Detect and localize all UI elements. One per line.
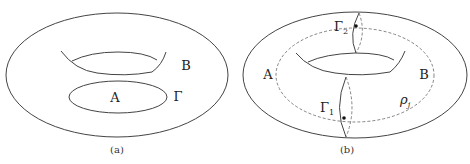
region-b-label: B [181,58,191,73]
gamma2-label: Γ2 [334,19,348,36]
torus-hole-upper-arc [72,52,157,61]
region-a-label: A [109,90,120,105]
torus-figure: A B Γ (a) A B Γ2 Γ1 ρj (b) [0,0,470,164]
caption-b: (b) [340,144,354,155]
region-a-label: A [262,67,273,82]
torus-hole-lower-arc [61,51,166,75]
gamma1-solid-arc [340,77,347,137]
gamma2-point [354,24,358,28]
caption-a: (a) [110,144,124,155]
torus-hole-upper-arc [308,53,394,62]
torus-hole-lower-arc [296,51,405,75]
gamma2-solid-arc [353,13,359,53]
gamma1-point [342,116,346,120]
gamma2-dashed-arc [356,13,362,53]
region-b-label: B [419,67,429,82]
rho-j-label: ρj [399,92,411,109]
panel-a: A B Γ (a) [6,13,228,155]
gamma-label: Γ [173,89,182,104]
gamma1-dashed-arc [346,77,352,137]
gamma1-label: Γ1 [320,100,334,117]
panel-b: A B Γ2 Γ1 ρj (b) [243,12,467,155]
